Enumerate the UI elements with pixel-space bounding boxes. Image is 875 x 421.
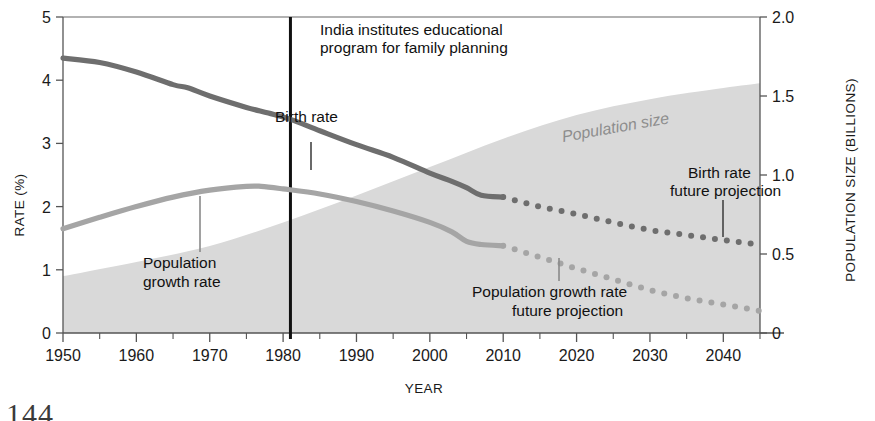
growth-rate-label-line1: Population xyxy=(143,254,216,271)
y-tick-label: 1 xyxy=(42,262,51,279)
birth-rate-label: Birth rate xyxy=(275,108,338,125)
x-tick-label: 2000 xyxy=(412,347,448,364)
x-tick-label: 2040 xyxy=(706,347,742,364)
birth-projection-label-line1: Birth rate xyxy=(688,164,751,181)
y2-tick-label: 0 xyxy=(772,325,781,342)
event-annotation-line1: India institutes educational xyxy=(320,21,503,38)
x-tick-label: 1950 xyxy=(45,347,81,364)
y-tick-label: 5 xyxy=(42,9,51,26)
x-axis-ticks: 1950196019701980199020002010202020302040 xyxy=(45,333,760,364)
page-number: 144 xyxy=(6,399,54,421)
y-tick-label: 4 xyxy=(42,72,51,89)
right-axis-ticks: 00.51.01.52.0 xyxy=(760,9,794,342)
right-axis-title: POPULATION SIZE (BILLIONS) xyxy=(843,78,858,282)
event-annotation-line2: program for family planning xyxy=(320,39,508,56)
x-tick-label: 2020 xyxy=(559,347,595,364)
growth-rate-label-line2: growth rate xyxy=(143,273,221,290)
x-tick-label: 2010 xyxy=(485,347,521,364)
left-axis-title: RATE (%) xyxy=(12,174,27,237)
growth-projection-label-line1: Population growth rate xyxy=(472,283,627,300)
x-tick-label: 2030 xyxy=(632,347,668,364)
y-tick-label: 2 xyxy=(42,199,51,216)
birth-projection-label-line2: future projection xyxy=(670,182,781,199)
growth-projection-label-line2: future projection xyxy=(512,302,623,319)
x-tick-label: 1980 xyxy=(265,347,301,364)
y-tick-label: 3 xyxy=(42,135,51,152)
y2-tick-label: 1.5 xyxy=(772,88,794,105)
y2-tick-label: 0.5 xyxy=(772,246,794,263)
x-axis-title: YEAR xyxy=(405,381,443,396)
y-tick-label: 0 xyxy=(42,325,51,342)
y2-tick-label: 2.0 xyxy=(772,9,794,26)
left-axis-ticks: 012345 xyxy=(42,9,63,342)
x-tick-label: 1960 xyxy=(119,347,155,364)
x-tick-label: 1970 xyxy=(192,347,228,364)
x-tick-label: 1990 xyxy=(339,347,375,364)
